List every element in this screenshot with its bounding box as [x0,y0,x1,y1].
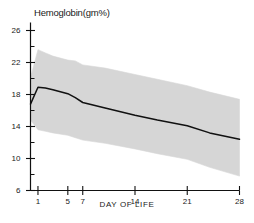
y-tick-label: 6 [5,186,21,195]
y-tick-label: 18 [5,90,21,99]
y-tick-label: 10 [5,154,21,163]
y-tick-label: 14 [5,122,21,131]
plot-area [0,0,254,223]
y-tick-label: 22 [5,58,21,67]
chart-figure: Hemoglobin(gm%) 61014182226 157142128 DA… [0,0,254,223]
y-tick-label: 26 [5,26,21,35]
x-axis-caption: DAY OF LIFE [0,200,254,209]
range-band [31,50,240,176]
